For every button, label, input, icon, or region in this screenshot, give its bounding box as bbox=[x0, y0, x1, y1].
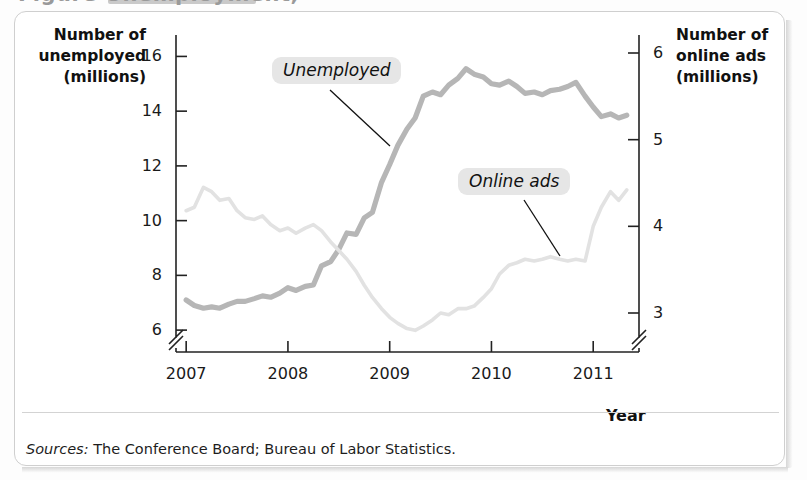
source-text: The Conference Board; Bureau of Labor St… bbox=[93, 441, 456, 457]
figure-container: Figure Unemployment, Number of unemploye… bbox=[0, 0, 807, 480]
source-note: Sources: The Conference Board; Bureau of… bbox=[26, 441, 456, 457]
footer-divider bbox=[22, 412, 779, 413]
y-tick-label-left-6: 6 bbox=[126, 320, 162, 339]
y-tick-label-left-16: 16 bbox=[126, 46, 162, 65]
x-tick-label-2011: 2011 bbox=[558, 364, 628, 383]
y-tick-label-right-3: 3 bbox=[653, 303, 689, 322]
y-tick-label-right-5: 5 bbox=[653, 130, 689, 149]
x-tick-label-2008: 2008 bbox=[253, 364, 323, 383]
x-tick-label-2009: 2009 bbox=[355, 364, 425, 383]
y-tick-label-left-14: 14 bbox=[126, 101, 162, 120]
y-tick-label-left-12: 12 bbox=[126, 156, 162, 175]
series-label-online-ads: Online ads bbox=[458, 168, 570, 195]
x-tick-label-2010: 2010 bbox=[456, 364, 526, 383]
leader-line-online-ads bbox=[524, 200, 560, 256]
y-tick-label-left-10: 10 bbox=[126, 211, 162, 230]
y-tick-label-left-8: 8 bbox=[126, 265, 162, 284]
series-line-online-ads bbox=[186, 187, 627, 330]
leader-line-unemployed bbox=[330, 90, 390, 146]
series-label-unemployed: Unemployed bbox=[272, 57, 401, 84]
chart-plot-area bbox=[0, 0, 807, 480]
y-tick-label-right-4: 4 bbox=[653, 216, 689, 235]
y-tick-label-right-6: 6 bbox=[653, 43, 689, 62]
source-label: Sources: bbox=[26, 441, 89, 457]
x-tick-label-2007: 2007 bbox=[151, 364, 221, 383]
